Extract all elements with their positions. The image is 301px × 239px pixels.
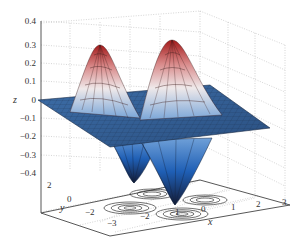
svg-text:−1: −1 xyxy=(170,207,180,217)
svg-text:−0.1: −0.1 xyxy=(20,113,36,123)
x-axis-label: x xyxy=(207,216,213,227)
surface-plot: 0.4 0.3 0.2 0.1 0 −0.1 −0.2 −0.3 −0.4 z … xyxy=(0,0,301,239)
svg-text:−2: −2 xyxy=(140,211,150,221)
svg-text:0.1: 0.1 xyxy=(25,76,36,86)
svg-text:−0.2: −0.2 xyxy=(20,131,36,141)
svg-text:0.2: 0.2 xyxy=(25,58,36,68)
svg-text:0: 0 xyxy=(67,194,72,204)
svg-text:0: 0 xyxy=(32,95,37,105)
z-axis-label: z xyxy=(12,94,17,105)
svg-text:−3: −3 xyxy=(107,218,117,228)
svg-text:0.3: 0.3 xyxy=(25,40,37,50)
svg-text:1: 1 xyxy=(231,202,236,212)
svg-text:−2: −2 xyxy=(85,207,95,217)
z-axis-ticks: 0.4 0.3 0.2 0.1 0 −0.1 −0.2 −0.3 −0.4 xyxy=(20,16,37,178)
svg-text:2: 2 xyxy=(256,199,261,209)
y-axis-ticks: 2 0 −2 xyxy=(47,180,95,217)
svg-text:2: 2 xyxy=(47,180,52,190)
svg-text:3: 3 xyxy=(282,197,287,207)
svg-text:−0.4: −0.4 xyxy=(20,168,37,178)
svg-text:0.4: 0.4 xyxy=(25,16,37,26)
svg-text:−0.3: −0.3 xyxy=(20,150,37,160)
y-axis-label: y xyxy=(59,202,65,213)
svg-text:0: 0 xyxy=(201,204,206,214)
